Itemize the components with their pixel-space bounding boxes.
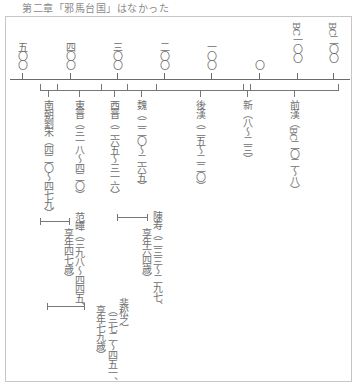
dynasty-stem [247, 90, 248, 97]
year-label-bc100: BC一〇〇 [291, 22, 302, 62]
year-label-200: 二〇〇 [158, 42, 169, 69]
dynasty-stem [48, 90, 49, 97]
lifespan-line-chen-shou [117, 217, 147, 218]
dynasty-label-western-jin: 西晋（二六五〜三一六） [108, 100, 119, 199]
tick-400 [70, 73, 71, 79]
lifespan-line-fan-ye [40, 221, 69, 222]
lifespan-cap [69, 218, 70, 225]
dynasty-label-former-han: 前漢（BC二〇二〜八） [288, 100, 299, 194]
dynasty-divider [101, 84, 102, 91]
year-label-bc200: BC二〇〇 [327, 22, 338, 62]
lifespan-cap [40, 218, 41, 225]
lifespan-cap [47, 303, 48, 310]
year-label-500: 五〇〇 [16, 42, 27, 69]
dynasty-divider [57, 84, 58, 91]
dynasty-stem [79, 90, 80, 97]
year-label-0: 〇 [253, 60, 264, 69]
person-age-chen-shou: 享年六四歳） [140, 228, 151, 282]
lifespan-cap [84, 303, 85, 310]
year-label-400: 四〇〇 [64, 42, 75, 69]
dynasty-stem [114, 90, 115, 97]
person-age-fan-ye: 享年四七歳） [62, 228, 73, 282]
diagram-frame [5, 16, 352, 382]
tick-0 [259, 73, 260, 79]
dynasty-divider [338, 84, 339, 91]
tick-500 [22, 73, 23, 79]
timeline-axis [10, 79, 350, 80]
dynasty-divider [127, 84, 128, 91]
person-age-pei-songzhi: 享年七九歳） [94, 305, 105, 359]
dynasty-stem [294, 90, 295, 97]
year-label-300: 三〇〇 [111, 42, 122, 69]
dynasty-label-eastern-jin: 東晋（三一八〜四二〇） [73, 100, 84, 199]
tick-100 [211, 73, 212, 79]
dynasty-label-liu-song: 南朝劉宋（四二〇〜四七九） [42, 100, 53, 217]
dynasty-label-wei: 魏（二二〇〜二六五） [135, 100, 146, 190]
lifespan-cap [147, 214, 148, 221]
person-label-fan-ye: 范曄（三九八〜四四五、 [73, 212, 84, 311]
dynasty-divider [250, 84, 251, 91]
tick-bc200 [333, 73, 334, 79]
tick-200 [164, 73, 165, 79]
dynasty-stem [200, 90, 201, 97]
dynasty-divider [156, 84, 157, 91]
dynasty-label-later-han: 後漢（二五〜二二〇） [194, 100, 205, 190]
dynasty-label-xin: 新（八〜二三） [241, 100, 252, 163]
person-label-chen-shou: 陳寿（二三三〜二九七、 [151, 211, 162, 310]
chapter-header: 第二章「邪馬台国」はなかった [22, 0, 169, 15]
tick-300 [117, 73, 118, 79]
dynasty-divider [40, 84, 41, 91]
person-label-pei-songzhi: 裴松之 [117, 298, 128, 325]
person-years-pei-songzhi: （三七二〜四五一、 [106, 305, 117, 386]
dynasty-divider [243, 84, 244, 91]
year-label-100: 一〇〇 [205, 42, 216, 69]
lifespan-line-pei-songzhi [47, 306, 84, 307]
dynasty-stem [141, 90, 142, 97]
lifespan-cap [117, 214, 118, 221]
tick-bc100 [297, 73, 298, 79]
